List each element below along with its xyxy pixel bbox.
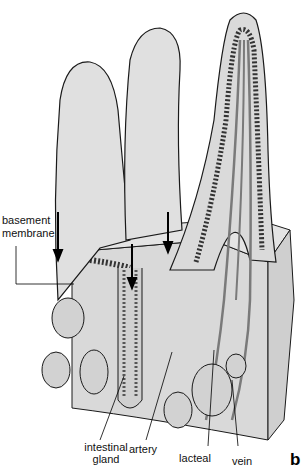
middle-villus [125, 28, 182, 240]
label-lacteal: lacteal [170, 452, 220, 464]
label-artery: artery [118, 443, 168, 455]
label-basement-membrane-line2: membrane [2, 227, 55, 239]
label-vein: vein [222, 455, 262, 467]
panel-letter: b [290, 450, 300, 470]
intestinal-gland [118, 268, 142, 408]
label-basement-membrane-line1: basement [2, 214, 50, 226]
